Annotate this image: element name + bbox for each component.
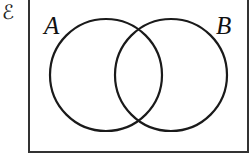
venn-diagram: ℰ A B [0,0,251,163]
universal-set-symbol: ℰ [2,0,14,24]
set-b-label: B [216,12,231,39]
set-a-label: A [42,12,60,39]
